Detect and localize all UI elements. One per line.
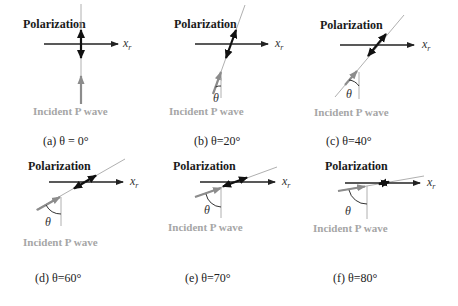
polarization-label: Polarization: [173, 159, 236, 173]
xr-axis-label: xr: [129, 174, 139, 190]
caption-c: (c) θ=40°: [326, 134, 372, 148]
polarization-label: Polarization: [320, 18, 383, 32]
incident-label: Incident P wave: [33, 105, 108, 117]
polarization-arrow-down-icon: [74, 182, 85, 189]
polarization-arrow-up-icon: [85, 176, 96, 183]
caption-b: (b) θ=20°: [194, 134, 241, 148]
panel-c: Polarization xr θ Incident P wave (c) θ=…: [314, 15, 431, 148]
incident-label: Incident P wave: [169, 105, 244, 117]
incident-label: Incident P wave: [168, 221, 243, 233]
polarization-label: Polarization: [174, 17, 237, 31]
angle-arc: [216, 86, 222, 87]
polarization-arrow-down-icon: [226, 44, 231, 58]
polarization-label: Polarization: [28, 159, 91, 173]
panel-d: Polarization xr θ Incident P wave (d) θ=…: [23, 159, 139, 285]
panel-f: Polarization xr θ Incident P wave (f) θ=…: [313, 159, 436, 285]
panel-b: Polarization xr θ Incident P wave (b) θ=…: [169, 5, 284, 148]
angle-arc: [46, 205, 61, 214]
panel-e: Polarization xr θ Incident P wave (e) θ=…: [168, 159, 291, 285]
caption-e: (e) θ=70°: [185, 271, 231, 285]
incident-label: Incident P wave: [23, 236, 98, 248]
angle-arc: [349, 80, 359, 86]
polarization-arrow-up-icon: [231, 30, 236, 44]
theta-label: θ: [345, 204, 351, 218]
polarization-label: Polarization: [23, 17, 86, 31]
polarization-arrow-up-icon: [384, 182, 389, 183]
incident-arrow-icon: [345, 71, 357, 85]
xr-axis-label: xr: [426, 175, 436, 191]
xr-axis-label: xr: [274, 36, 284, 52]
xr-axis-label: xr: [421, 37, 431, 53]
caption-d: (d) θ=60°: [35, 271, 82, 285]
theta-label: θ: [45, 215, 51, 229]
incident-label: Incident P wave: [313, 222, 388, 234]
incident-label: Incident P wave: [314, 106, 389, 118]
polarization-label: Polarization: [325, 159, 388, 173]
theta-label: θ: [204, 203, 210, 217]
incident-arrow-icon: [195, 188, 221, 197]
polarization-diagram: Polarization xr Incident P wave (a) θ = …: [0, 0, 458, 306]
caption-a: (a) θ = 0°: [43, 134, 89, 148]
polarization-arrow-down-icon: [368, 45, 377, 56]
caption-f: (f) θ=80°: [333, 271, 378, 285]
incident-arrow-icon: [338, 187, 365, 192]
polarization-arrow-up-icon: [377, 34, 386, 45]
xr-axis-label: xr: [122, 36, 132, 52]
panel-a: Polarization xr Incident P wave (a) θ = …: [23, 4, 132, 148]
angle-arc: [349, 190, 367, 204]
theta-label: θ: [213, 91, 219, 105]
polarization-arrow-down-icon: [379, 183, 384, 184]
xr-axis-label: xr: [281, 174, 291, 190]
theta-label: θ: [346, 87, 352, 101]
